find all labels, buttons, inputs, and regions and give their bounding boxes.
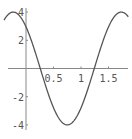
y-tick-label: -4 <box>12 120 24 131</box>
line-chart: 42-2-4 0.511.5 <box>0 0 132 139</box>
x-tick-label: 1.5 <box>99 73 117 84</box>
x-tick-label: 1 <box>78 73 84 84</box>
y-tick-label: 2 <box>18 35 24 46</box>
y-tick-label: 4 <box>18 7 24 18</box>
y-tick-label: -2 <box>12 92 24 103</box>
x-tick-label: 0.5 <box>44 73 62 84</box>
x-tick-labels: 0.511.5 <box>44 67 117 85</box>
